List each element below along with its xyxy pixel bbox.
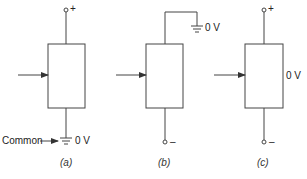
caption-c: (c) xyxy=(257,158,269,168)
diagram-svg xyxy=(0,0,307,179)
zero-volt-label-b: 0 V xyxy=(205,23,220,33)
caption-b: (b) xyxy=(158,158,170,168)
negative-label-c: – xyxy=(269,137,275,147)
zero-volt-label-c: 0 V xyxy=(286,71,301,81)
caption-a: (a) xyxy=(60,158,72,168)
zero-volt-label-a: 0 V xyxy=(75,136,90,146)
panel-b xyxy=(116,12,203,144)
positive-terminal-icon xyxy=(262,8,266,12)
negative-terminal-icon xyxy=(163,140,167,144)
ground-icon xyxy=(60,138,72,144)
positive-label-c: + xyxy=(268,4,274,14)
panel-a xyxy=(18,8,85,144)
device-box-a xyxy=(48,44,85,108)
negative-label-b: – xyxy=(170,137,176,147)
positive-label-a: + xyxy=(70,4,76,14)
device-box-b xyxy=(146,44,183,108)
negative-terminal-icon xyxy=(262,140,266,144)
positive-terminal-icon xyxy=(64,8,68,12)
panel-c xyxy=(214,8,283,144)
common-label: Common xyxy=(2,136,43,146)
diagram-canvas: + Common 0 V (a) 0 V – (b) + 0 V – (c) xyxy=(0,0,307,179)
device-box-c xyxy=(245,44,283,108)
ground-icon xyxy=(191,26,203,32)
